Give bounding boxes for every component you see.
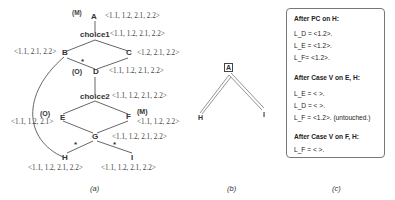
node-g: G: [92, 133, 98, 141]
section-heading: After Case V on E, H:: [294, 75, 360, 82]
node-e-label: <1.1, 1.2, 2.1>: [11, 119, 53, 126]
section-line: L_F= <1.2>.: [294, 55, 330, 62]
node-choice1-label: <1.1, 1.2, 2.1, 2.2>: [110, 31, 165, 38]
node-f-tag: (M): [137, 108, 148, 115]
node-f: F: [126, 113, 131, 121]
node-c: C: [126, 49, 132, 57]
node-choice1: choice1: [80, 31, 110, 39]
section-line: L_E = < >.: [294, 91, 325, 98]
node-b-label: <1.1, 2.1, 2.2>: [14, 49, 56, 56]
node-b: B: [62, 49, 68, 57]
node-f-label: <1.1, 1.2, 2.2>: [137, 119, 179, 126]
node-c-label: <1.2, 2.1, 2.2>: [137, 50, 179, 57]
fig-b-node-h: H: [198, 114, 203, 121]
fig-b-node-a: A: [226, 64, 231, 71]
node-i: I: [131, 154, 133, 162]
node-e-tag: (O): [40, 110, 50, 117]
caption-c: (c): [332, 185, 341, 193]
node-e: E: [60, 114, 65, 122]
node-a-tag: (M): [72, 10, 82, 17]
caption-a: (a): [90, 185, 99, 193]
star-marker: *: [113, 141, 116, 149]
caption-b: (b): [227, 185, 236, 193]
node-h-label: <1.1, 1.2, 2.1, 2.2>: [28, 165, 83, 172]
state-panel: After PC on H: L_D = <1.2>. L_E = <1.2>.…: [286, 8, 385, 158]
section-line: L_F = < >.: [294, 147, 324, 154]
star-marker: *: [81, 58, 84, 66]
node-h: H: [62, 154, 68, 162]
node-i-label: <1.1, 1.2, 2.1, 2.2>: [101, 165, 156, 172]
section-line: L_D = < >.: [294, 103, 325, 110]
node-d: D: [93, 68, 99, 76]
node-a-label: <1.1, 1.2, 2.1, 2.2>: [105, 13, 160, 20]
node-d-tag: (O): [72, 68, 82, 75]
section-line: L_F = <1.2>. (untouched.): [294, 115, 370, 122]
node-a: A: [91, 13, 97, 21]
section-heading: After Case V on F, H:: [294, 134, 359, 141]
star-marker: *: [74, 141, 77, 149]
node-choice2-label: <1.1, 1.2, 2.1, 2.2>: [112, 93, 167, 100]
node-choice2: choice2: [80, 93, 110, 101]
node-d-label: <1.1, 1.2, 2.1, 2.2>: [109, 68, 164, 75]
section-heading: After PC on H:: [294, 16, 339, 23]
fig-b-node-i: I: [263, 111, 265, 118]
node-g-label: <1.1, 1.2, 2.1, 2.2>: [112, 134, 167, 141]
section-line: L_D = <1.2>.: [294, 31, 332, 38]
section-line: L_E = <1.2>.: [294, 43, 332, 50]
